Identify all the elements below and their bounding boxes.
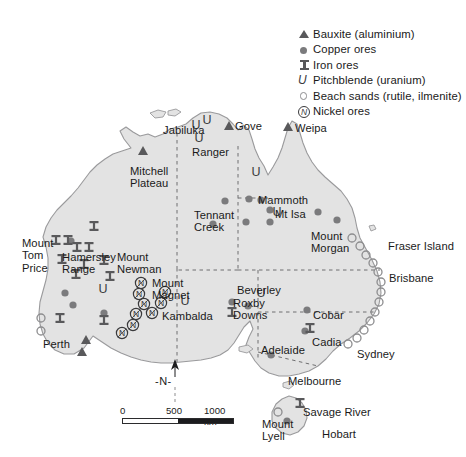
legend-item-beach-sands: Beach sands (rutile, ilmenite) [296, 88, 464, 104]
legend-label-nickel: Nickel ores [313, 105, 370, 117]
label-gove: Gove [235, 120, 262, 132]
legend-item-bauxite: Bauxite (aluminium) [296, 26, 464, 42]
legend-label-copper: Copper ores [313, 43, 376, 55]
label-mount-morgan: Mount Morgan [311, 230, 349, 255]
bauxite-triangle-icon [296, 26, 313, 41]
label-weipa: Weipa [295, 122, 327, 134]
beach-sand-symbol [344, 340, 352, 348]
legend-item-nickel: N Nickel ores [296, 104, 464, 120]
beach-sand-circle-icon [296, 88, 313, 103]
legend-label-bauxite: Bauxite (aluminium) [313, 28, 415, 40]
copper-symbol [221, 197, 228, 204]
nickel-circled-n-icon: N [296, 104, 313, 119]
label-perth: Perth [43, 338, 70, 350]
label-tennant-creek: Tennant Creek [194, 209, 234, 234]
legend-label-pitchblende: Pitchblende (uranium) [313, 74, 426, 86]
copper-symbol [314, 208, 321, 215]
scale-bar: 0 500 1000 km [122, 405, 234, 424]
copper-symbol [61, 289, 68, 296]
legend-label-beach-sands: Beach sands (rutile, ilmenite) [313, 90, 462, 102]
iron-ibeam-icon [296, 57, 313, 72]
copper-circle-icon [296, 42, 313, 57]
copper-symbol [242, 218, 249, 225]
pitchblende-symbol: U [251, 165, 260, 179]
scale-bar-dark-half [178, 419, 233, 423]
label-kambalda: Kambalda [162, 310, 213, 322]
bathurst-island-outline [168, 109, 181, 116]
label-mount-lyell: Mount Lyell [262, 418, 293, 443]
copper-symbol [266, 218, 273, 225]
melville-island-outline [150, 110, 166, 118]
label-hobart: Hobart [322, 428, 356, 440]
label-jabiluka: Jabiluka [163, 124, 204, 136]
copper-symbol [245, 195, 252, 202]
copper-symbol [69, 301, 76, 308]
north-arrow-label: -N- [155, 375, 172, 387]
scale-bar-graphic [122, 418, 234, 424]
legend-item-pitchblende: U Pitchblende (uranium) [296, 73, 464, 89]
label-mammoth: Mammoth [258, 194, 308, 206]
label-beverley: Beverley [237, 284, 281, 296]
pitchblende-symbol: U [98, 282, 107, 296]
label-cobar: Cobar [313, 309, 344, 321]
fraser-island-outline [369, 225, 376, 231]
label-mount-tom-price: Mount Tom Price [22, 237, 53, 274]
label-melbourne: Melbourne [288, 375, 341, 387]
legend-label-iron: Iron ores [313, 59, 358, 71]
legend-item-copper: Copper ores [296, 42, 464, 58]
beach-sand-symbol [353, 334, 361, 342]
label-mount-newman: Mount Newman [117, 251, 161, 276]
label-roxby-downs: Roxby Downs [233, 297, 267, 322]
label-mt-isa: Mt Isa [275, 208, 306, 220]
label-cadia: Cadia [312, 336, 341, 348]
label-mount-magnet: Mount Magnet [152, 277, 190, 302]
label-brisbane: Brisbane [389, 272, 434, 284]
label-hamersley-range: Hamersley Range [62, 251, 116, 276]
label-fraser-island: Fraser Island [388, 240, 454, 252]
legend: Bauxite (aluminium) Copper ores Iron ore… [296, 26, 464, 119]
copper-symbol [333, 216, 340, 223]
copper-symbol [303, 306, 310, 313]
scale-tick-0: 0 [120, 405, 125, 416]
scale-bar-ticks: 0 500 1000 km [122, 405, 234, 418]
label-sydney: Sydney [357, 348, 395, 360]
pitchblende-u-icon: U [296, 73, 313, 88]
label-savage-river: Savage River [303, 406, 371, 418]
label-mitchell-plateau: Mitchell Plateau [130, 165, 168, 190]
label-adelaide: Adelaide [261, 344, 305, 356]
label-ranger: Ranger [192, 146, 229, 158]
scale-tick-500: 500 [166, 405, 182, 416]
mineral-resources-map-page: UUUUUUUUNNNNNNNNN Bauxite (aluminium) Co… [0, 0, 466, 457]
legend-item-iron: Iron ores [296, 57, 464, 73]
beach-sand-symbol [360, 326, 368, 334]
